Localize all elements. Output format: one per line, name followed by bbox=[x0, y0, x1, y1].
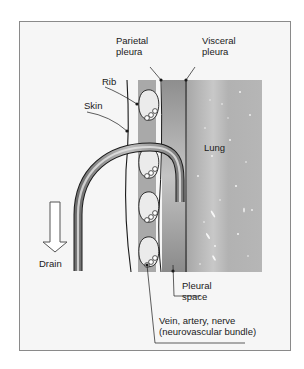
label-lung: Lung bbox=[204, 142, 225, 153]
label-visceral-pleura-line1: Visceral bbox=[202, 35, 236, 46]
label-pleural-space-line2: space bbox=[182, 291, 212, 302]
rib-3 bbox=[139, 192, 159, 223]
label-pleural-space: Pleural space bbox=[182, 280, 212, 302]
label-neurovascular-line2: (neurovascular bundle) bbox=[159, 326, 256, 337]
label-parietal-pleura-line2: pleura bbox=[116, 46, 148, 57]
rib-2 bbox=[139, 148, 159, 179]
label-skin: Skin bbox=[84, 100, 102, 111]
label-pleural-space-line1: Pleural bbox=[182, 280, 212, 291]
label-parietal-pleura: Parietal pleura bbox=[116, 35, 148, 57]
chest-wall-diagram bbox=[0, 0, 304, 369]
label-visceral-pleura: Visceral pleura bbox=[202, 35, 236, 57]
chest-wall-inner-line bbox=[159, 80, 162, 272]
label-neurovascular-line1: Vein, artery, nerve bbox=[159, 315, 256, 326]
skin-line bbox=[126, 80, 131, 272]
label-drain: Drain bbox=[39, 258, 62, 269]
label-parietal-pleura-line1: Parietal bbox=[116, 35, 148, 46]
rib-4 bbox=[139, 237, 159, 268]
label-rib: Rib bbox=[102, 76, 116, 87]
label-neurovascular-bundle: Vein, artery, nerve (neurovascular bundl… bbox=[159, 315, 256, 337]
lung bbox=[187, 80, 262, 272]
drain-arrow-icon bbox=[43, 202, 67, 252]
label-visceral-pleura-line2: pleura bbox=[202, 46, 236, 57]
rib-1 bbox=[139, 90, 159, 121]
